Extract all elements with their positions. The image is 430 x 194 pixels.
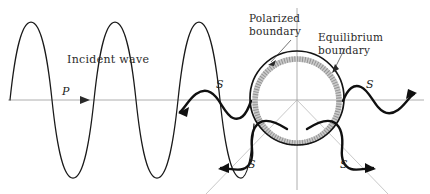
scattered-wave-back-group [178, 91, 251, 119]
arrow-head-down-right [365, 163, 376, 173]
arrow-head-down-left [218, 163, 229, 173]
polarized-boundary-label-line2: boundary [249, 25, 301, 37]
equilibrium-boundary-label-line1: Equilibrium [318, 31, 383, 43]
s-wave-forward-label: S [366, 78, 374, 91]
scattered-wave-forward-group [343, 86, 417, 113]
scattered-wave-forward-path [343, 86, 414, 113]
equilibrium-boundary-label-line2: boundary [318, 44, 370, 56]
incident-wave-label: Incident wave [67, 53, 149, 66]
s-wave-down-left-label: S [248, 158, 256, 171]
scattered-wave-back-path [180, 91, 251, 119]
s-wave-down-right-label: S [340, 158, 348, 171]
polarized-boundary-label-line1: Polarized [249, 12, 300, 24]
s-wave-back-label: S [216, 78, 224, 91]
seismic-scattering-diagram: Incident wave Polarized boundary Equilib… [0, 0, 430, 194]
p-direction-arrow-group [80, 96, 90, 104]
p-wave-label: P [61, 85, 70, 98]
arrow-head-p-direction [80, 96, 90, 104]
diagram-canvas: Incident wave Polarized boundary Equilib… [0, 0, 430, 194]
